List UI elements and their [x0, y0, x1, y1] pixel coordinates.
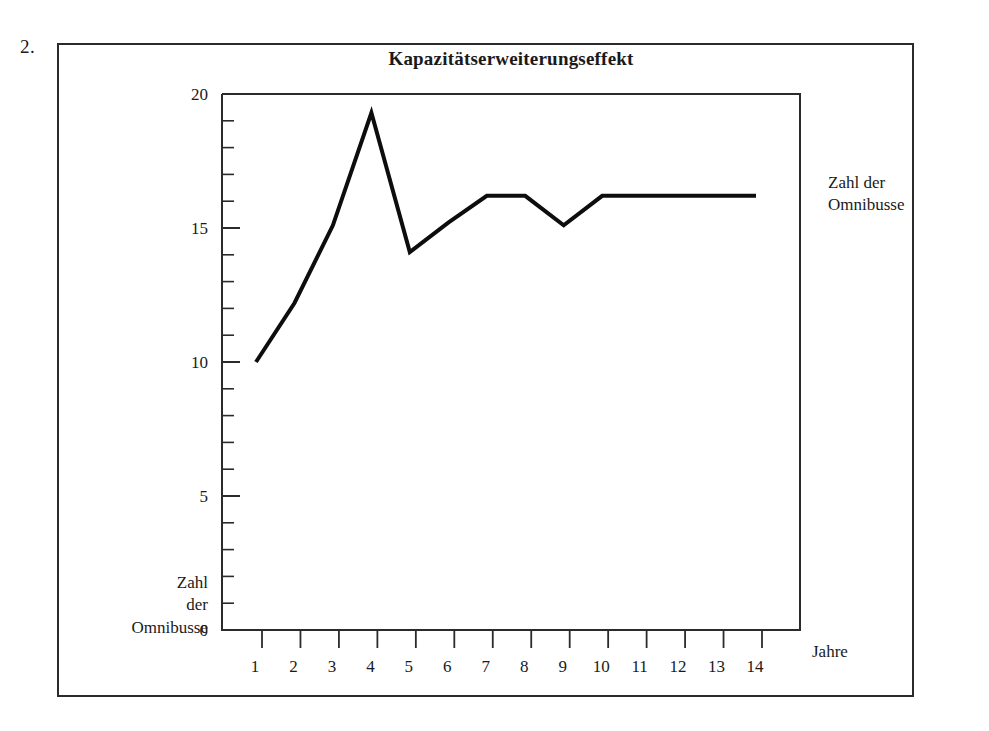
- svg-text:5: 5: [200, 487, 209, 506]
- y-axis-label-right: Zahl der Omnibusse: [828, 172, 905, 217]
- svg-text:11: 11: [631, 657, 647, 676]
- svg-text:13: 13: [708, 657, 725, 676]
- svg-text:10: 10: [191, 353, 208, 372]
- y-axis-label-left: Zahl der Omnibusse: [58, 572, 208, 639]
- svg-text:2: 2: [289, 657, 298, 676]
- svg-text:7: 7: [482, 657, 491, 676]
- svg-text:20: 20: [191, 85, 208, 104]
- svg-text:8: 8: [520, 657, 529, 676]
- svg-text:1: 1: [251, 657, 260, 676]
- svg-text:9: 9: [558, 657, 567, 676]
- svg-text:3: 3: [328, 657, 337, 676]
- y-axis-ticks: [222, 121, 240, 603]
- svg-text:10: 10: [593, 657, 610, 676]
- x-axis-label: Jahre: [812, 642, 848, 662]
- data-series-line: [256, 113, 756, 362]
- svg-text:5: 5: [405, 657, 414, 676]
- x-axis-tick-labels: 1234567891011121314: [251, 657, 764, 676]
- y-axis-tick-labels: 05101520: [191, 85, 208, 640]
- x-axis-ticks: [262, 630, 762, 648]
- svg-text:4: 4: [366, 657, 375, 676]
- svg-text:6: 6: [443, 657, 452, 676]
- svg-text:14: 14: [747, 657, 765, 676]
- svg-text:12: 12: [670, 657, 687, 676]
- svg-text:15: 15: [191, 219, 208, 238]
- plot-frame: [222, 94, 800, 630]
